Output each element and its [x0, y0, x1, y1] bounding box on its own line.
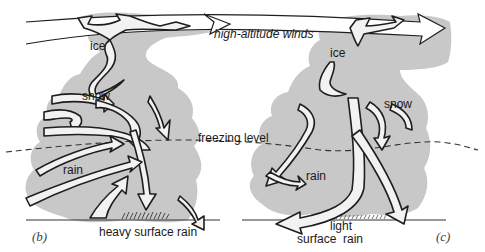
- snow-label-c: snow: [384, 98, 412, 110]
- storm-diagram: high-altitude winds freezing level ice s…: [0, 0, 485, 252]
- surface-rain-label-c: surface rain: [297, 233, 363, 245]
- light-label-c: light: [330, 220, 352, 232]
- panel-label-b: (b): [32, 230, 47, 243]
- freezing-level-label: freezing level: [198, 132, 269, 144]
- ice-label-c: ice: [330, 47, 345, 59]
- panel-label-c: (c): [436, 230, 450, 243]
- heavy-surface-rain-label: heavy surface rain: [99, 226, 197, 238]
- snow-label-b: snow: [82, 90, 110, 102]
- high-altitude-winds-label: high-altitude winds: [214, 28, 313, 40]
- rain-label-b: rain: [63, 164, 83, 176]
- ice-label-b: ice: [90, 40, 105, 52]
- rain-label-c: rain: [306, 170, 326, 182]
